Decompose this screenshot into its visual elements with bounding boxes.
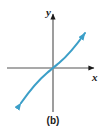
coordinate-plot [0, 0, 106, 133]
y-axis-label: y [46, 7, 51, 18]
figure-panel: y x (b) [0, 0, 106, 133]
x-axis-label: x [92, 72, 98, 83]
figure-caption: (b) [0, 116, 106, 126]
